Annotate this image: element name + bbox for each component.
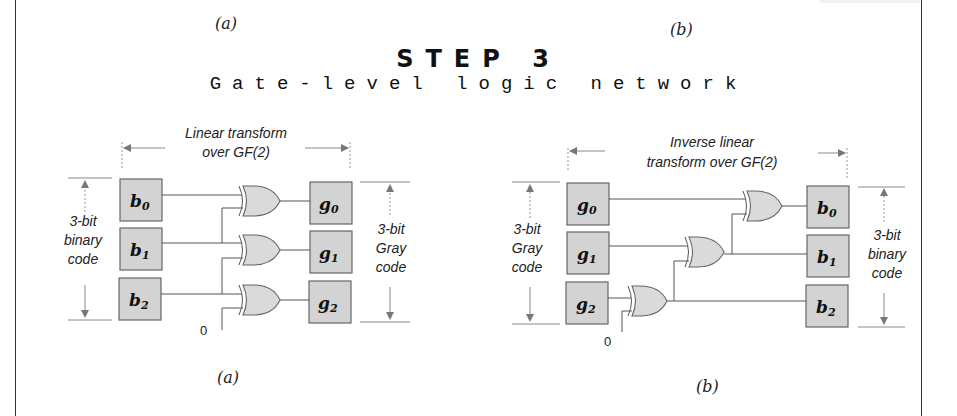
right-label-b-3: code <box>872 265 903 281</box>
caption-b: (b) <box>696 377 719 396</box>
gate-diagrams: Linear transform over GF(2) 3-bit binary… <box>0 0 957 416</box>
left-label-a-2: binary <box>64 232 103 248</box>
xor-gate-b1 <box>685 237 724 267</box>
xor-gate-a2 <box>239 285 280 315</box>
right-label-b-2: binary <box>868 246 907 262</box>
diagram-a: Linear transform over GF(2) 3-bit binary… <box>64 125 410 338</box>
xor-gate-b0 <box>743 191 782 221</box>
left-label-b-3: code <box>512 259 543 275</box>
span-label-b-line2: transform over GF(2) <box>647 154 778 170</box>
caption-a: (a) <box>217 368 239 387</box>
left-label-a-3: code <box>68 251 99 267</box>
constant-zero-b: 0 <box>604 334 611 349</box>
left-label-a-1: 3-bit <box>69 213 97 229</box>
right-label-a-2: Gray <box>376 240 407 256</box>
span-label-a-line2: over GF(2) <box>202 144 270 160</box>
span-label-a-line1: Linear transform <box>185 125 287 141</box>
right-label-b-1: 3-bit <box>873 227 901 243</box>
xor-gate-a1 <box>239 235 280 265</box>
right-label-a-1: 3-bit <box>377 221 405 237</box>
diagram-b: Inverse linear transform over GF(2) 3-bi… <box>512 134 907 349</box>
xor-gate-b2 <box>628 286 667 316</box>
constant-zero-a: 0 <box>200 323 207 338</box>
left-label-b-2: Gray <box>512 240 543 256</box>
right-label-a-3: code <box>376 259 407 275</box>
left-label-b-1: 3-bit <box>513 221 541 237</box>
span-label-b-line1: Inverse linear <box>670 134 755 150</box>
xor-gate-a0 <box>239 186 280 216</box>
